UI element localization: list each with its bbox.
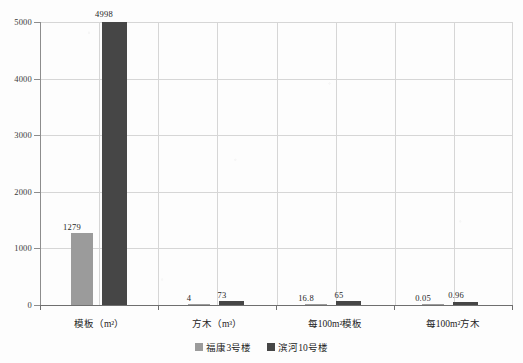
gridline-vertical-1 (99, 22, 100, 305)
y-tick-mark-2000 (34, 192, 40, 193)
x-category-label-0: 模板（m²） (39, 316, 159, 330)
x-category-label-2: 每100m²模板 (275, 316, 395, 330)
x-tick-mark-1 (158, 305, 159, 310)
y-tick-label-1000: 1000 (6, 243, 32, 253)
plot-area (40, 22, 513, 305)
bar-chart: 5000 4000 3000 2000 1000 0 1279 4998 4 7… (0, 0, 523, 363)
y-tick-mark-1000 (34, 248, 40, 249)
y-tick-mark-3000 (34, 135, 40, 136)
chart-legend: 福康3号楼 滨河10号楼 (0, 340, 523, 354)
x-category-label-1: 方木（m³） (157, 316, 277, 330)
legend-swatch-icon-series-b (267, 343, 275, 351)
gridline-vertical-3 (217, 22, 218, 305)
x-tick-mark-0 (40, 305, 41, 310)
bar-group-0-series-b (102, 22, 127, 305)
bar-label-group-0-series-a: 1279 (52, 222, 92, 232)
legend-label-1: 滨河10号楼 (278, 340, 328, 354)
x-tick-mark-3 (394, 305, 395, 310)
legend-swatch-icon-series-a (195, 343, 203, 351)
gridline-vertical-7 (454, 22, 455, 305)
gridline-vertical-6 (395, 22, 396, 305)
y-tick-label-5000: 5000 (6, 17, 32, 27)
gridline-vertical-5 (336, 22, 337, 305)
y-tick-label-4000: 4000 (6, 74, 32, 84)
y-tick-mark-4000 (34, 79, 40, 80)
gridline-vertical-2 (158, 22, 159, 305)
x-tick-mark-4 (512, 305, 513, 310)
x-tick-mark-2 (276, 305, 277, 310)
y-axis-line (40, 22, 41, 306)
y-tick-mark-5000 (34, 22, 40, 23)
y-tick-label-0: 0 (6, 300, 32, 310)
y-tick-label-3000: 3000 (6, 130, 32, 140)
x-category-label-3: 每100m²方木 (393, 316, 513, 330)
bar-label-group-2-series-b: 65 (319, 290, 359, 300)
y-tick-label-2000: 2000 (6, 187, 32, 197)
bar-label-group-3-series-b: 0.96 (436, 290, 476, 300)
legend-item-1[interactable]: 滨河10号楼 (267, 340, 328, 354)
gridline-vertical-4 (277, 22, 278, 305)
bar-group-0-series-a (71, 233, 93, 305)
bar-label-group-1-series-b: 73 (202, 290, 242, 300)
legend-item-0[interactable]: 福康3号楼 (195, 340, 251, 354)
legend-label-0: 福康3号楼 (206, 340, 251, 354)
bar-label-group-0-series-b: 4998 (84, 9, 124, 19)
gridline-vertical-8 (512, 22, 513, 305)
